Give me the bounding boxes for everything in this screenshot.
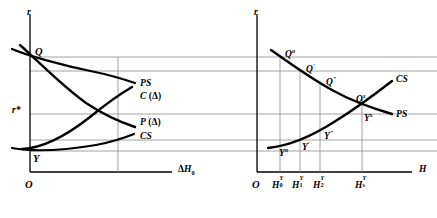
curve-label-ps-right: PS	[396, 110, 407, 120]
point-label-y-left: Y	[33, 154, 40, 165]
point-label-q-s: Qs	[356, 93, 366, 105]
left-x-axis-label: ΔH0	[178, 165, 195, 176]
curve-label-cs-right: CS	[396, 75, 408, 85]
c-delta-arg: (Δ)	[149, 91, 162, 101]
x-tick-h2-indices: Y2	[321, 178, 326, 188]
y-o-sup: o	[285, 146, 288, 153]
point-label-q-double-prime: Q″	[326, 76, 337, 88]
q-s-base: Q	[356, 94, 363, 104]
y-dprime-sup: ″	[330, 129, 334, 136]
curve-label-p-delta: P (Δ)	[140, 118, 161, 128]
point-label-q-left: Q	[35, 47, 43, 58]
p-delta-arg: (Δ)	[148, 117, 161, 127]
point-label-y-s: Ys	[364, 112, 373, 124]
x-tick-h0: HY0	[272, 178, 284, 190]
right-panel-drop-lines	[280, 57, 362, 172]
q-o-base: Q	[285, 49, 292, 59]
economics-two-panel-figure: r Q Y r* O ΔH0 PS C (Δ) P (Δ) CS r H O H…	[0, 0, 437, 218]
x-tick-h1-base: H	[292, 180, 300, 190]
x-tick-h2-base: H	[313, 180, 321, 190]
curve-label-c-delta: C (Δ)	[140, 92, 161, 102]
point-label-y-double-prime: Y″	[324, 130, 334, 142]
h-subscript: 0	[192, 169, 195, 176]
q-dprime-sup: ″	[333, 75, 337, 82]
q-dprime-base: Q	[326, 77, 333, 87]
curve-label-cs-left: CS	[140, 132, 152, 142]
right-x-axis-label: H	[419, 165, 427, 175]
x-tick-h2: HY2	[313, 178, 325, 190]
x-tick-h0-indices: Y0	[280, 178, 285, 188]
x-tick-hs-indices: Ys	[363, 178, 368, 188]
x-tick-hs: HYs	[355, 178, 367, 190]
curve-label-ps-left: PS	[140, 79, 151, 89]
x-tick-h1-indices: Y1	[300, 178, 305, 188]
point-label-y-o: Yo	[279, 147, 288, 159]
y-prime-sup: ′	[308, 140, 310, 147]
q-prime-sup: ′	[313, 62, 315, 69]
point-label-y-prime: Y′	[302, 141, 310, 153]
q-o-sup: o	[292, 47, 295, 54]
right-y-axis-label: r	[254, 8, 258, 18]
h-symbol: H	[184, 164, 192, 174]
rate-star-label: r*	[12, 106, 21, 116]
x-tick-h1: HY1	[292, 178, 304, 190]
figure-canvas	[0, 0, 437, 218]
right-origin-label: O	[252, 180, 260, 191]
point-label-q-prime: Q′	[306, 63, 315, 75]
y-s-sup: s	[370, 111, 373, 118]
q-prime-base: Q	[306, 64, 313, 74]
q-s-sup: s	[363, 92, 366, 99]
point-label-q-o: Qo	[285, 48, 295, 60]
left-y-axis-label: r	[27, 8, 31, 18]
x-tick-hs-base: H	[355, 180, 363, 190]
left-origin-label: O	[25, 180, 33, 191]
x-tick-h0-base: H	[272, 180, 280, 190]
